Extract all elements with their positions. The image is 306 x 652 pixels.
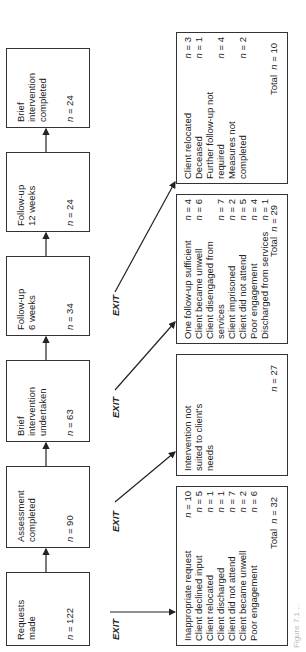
exit-reason: Deceasedn = 1: [193, 37, 204, 179]
exit-label-2: EXIT: [110, 511, 121, 532]
exit-total: Total n = 32: [268, 497, 279, 549]
exit-box-requests: Inappropriate requestn = 10 Client decli…: [176, 486, 288, 646]
exit-label-4: EXIT: [110, 295, 121, 316]
exit-box-assessment: Intervention not suited to client's need…: [176, 354, 288, 476]
figure-caption: Figure 7.1 ...: [292, 603, 301, 648]
stage-follow-up-12-weeks: Follow-up 12 weeks n = 24: [6, 152, 90, 232]
stage-follow-up-6-weeks: Follow-up 6 weeks n = 34: [6, 256, 90, 336]
exit-reason: Client did not attendn = 7: [226, 491, 237, 641]
exit-total: Total n = 10: [268, 43, 279, 95]
exit-reason: Client relocatedn = 1: [204, 491, 215, 641]
exit-reason: Client declined inputn = 5: [193, 491, 204, 641]
exit-label-3: EXIT: [110, 397, 121, 418]
exit-reason: Client became unwelln = 6: [193, 199, 204, 339]
stage-assessment-completed: Assessment completed n = 90: [6, 466, 90, 548]
exit-reason: Client dischargedn = 1: [215, 491, 226, 641]
exit-box-intervention: One follow-up sufficientn = 4 Client bec…: [176, 194, 288, 344]
exit-reason: Client did not attendn = 5: [237, 199, 248, 339]
exit-box-follow-up: Client relocatedn = 3 Deceasedn = 1 Furt…: [176, 32, 288, 184]
exit-reason: Inappropriate requestn = 10: [182, 491, 193, 641]
flow-diagram: Requests made n = 122 Assessment complet…: [0, 0, 306, 652]
exit-reason: Intervention not suited to client's need…: [182, 359, 215, 471]
exit-total: n = 27: [268, 365, 279, 392]
exit-reason: Poor engagementn = 4: [248, 199, 259, 339]
exit-reason: One follow-up sufficientn = 4: [182, 199, 193, 339]
exit-reason: Further follow-up not requiredn = 4: [204, 37, 226, 179]
exit-total: Total n = 29: [268, 205, 279, 257]
exit-reason: Client became unwelln = 2: [237, 491, 248, 641]
stage-brief-intervention-completed: Brief intervention completed n = 24: [6, 48, 90, 128]
stage-requests-made: Requests made n = 122: [6, 572, 90, 646]
exit-reason: Client relocatedn = 3: [182, 37, 193, 179]
stage-brief-intervention-undertaken: Brief intervention undertaken n = 63: [6, 360, 90, 442]
exit-reason: Poor engagementn = 6: [248, 491, 259, 641]
exit-reason: Client imprisonedn = 2: [226, 199, 237, 339]
exit-reason: Measures not completedn = 2: [226, 37, 248, 179]
exit-reason: Client disengaged from servicesn = 7: [204, 199, 226, 339]
exit-label-1: EXIT: [110, 619, 121, 640]
